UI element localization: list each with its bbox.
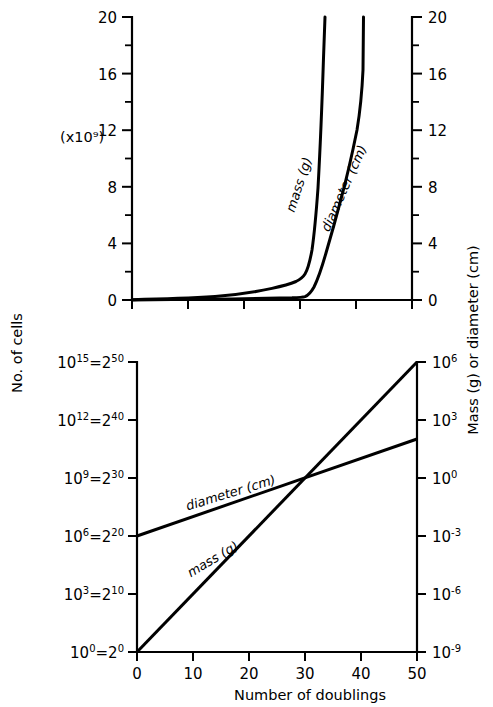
log-left-ticklabel-6: 106=220	[64, 527, 124, 546]
log-x-ticklabel-0: 0	[132, 665, 142, 683]
linear-right-ticklabel-20: 20	[428, 9, 447, 27]
linear-right-ticklabel-16: 16	[428, 66, 447, 84]
log-right-ticklabel-3: 103	[432, 411, 457, 430]
linear-left-ticklabel-8: 8	[107, 179, 117, 197]
linear-left-ticklabel-16: 16	[98, 66, 117, 84]
linear-right-ticklabel-4: 4	[428, 235, 438, 253]
linear-left-ticklabel-0: 0	[107, 292, 117, 310]
linear-x-ticks	[132, 300, 412, 309]
log-left-ticklabels: 100=20 103=210 106=220 109=230 1012=240 …	[57, 353, 124, 662]
linear-multiplier-note: (x10⁹)	[60, 129, 104, 145]
log-left-ticklabel-3: 103=210	[64, 585, 124, 604]
right-axis-title: Mass (g) or diameter (cm)	[465, 245, 481, 434]
log-left-ticklabel-12: 1012=240	[57, 411, 124, 430]
log-x-ticklabel-40: 40	[351, 665, 370, 683]
linear-series-diameter-curve	[132, 17, 364, 300]
linear-label-diameter: diameter (cm)	[318, 143, 370, 234]
linear-label-mass: mass (g)	[283, 155, 315, 214]
linear-series-mass-curve	[132, 17, 325, 300]
log-x-ticklabel-30: 30	[295, 665, 314, 683]
log-x-ticklabel-50: 50	[407, 665, 426, 683]
log-right-ticklabels: 10-9 10-6 10-3 100 103 106	[432, 353, 461, 662]
linear-right-ticklabel-8: 8	[428, 179, 438, 197]
log-right-ticklabel-neg3: 10-3	[432, 527, 461, 546]
log-left-ticklabel-0: 100=20	[70, 643, 124, 662]
log-series-mass-line	[137, 362, 417, 652]
figure-svg: 0 4 8 12 16 20 0 4 8 12 16 20 (x10⁹) mas…	[0, 0, 493, 707]
log-right-ticks	[417, 362, 426, 652]
log-x-ticks	[137, 652, 417, 661]
log-panel: 100=20 103=210 106=220 109=230 1012=240 …	[57, 353, 461, 683]
x-axis-title: Number of doublings	[234, 687, 386, 703]
log-left-ticklabel-9: 109=230	[64, 469, 124, 488]
linear-right-ticklabel-0: 0	[428, 292, 438, 310]
linear-right-ticklabel-12: 12	[428, 122, 447, 140]
left-axis-title: No. of cells	[9, 313, 25, 393]
log-right-ticklabel-neg9: 10-9	[432, 643, 461, 662]
log-right-ticklabel-6: 106	[432, 353, 457, 372]
linear-left-ticklabel-4: 4	[107, 235, 117, 253]
log-x-ticklabel-10: 10	[183, 665, 202, 683]
log-right-ticklabel-neg6: 10-6	[432, 585, 461, 604]
linear-panel: 0 4 8 12 16 20 0 4 8 12 16 20 (x10⁹) mas…	[60, 9, 447, 310]
figure-root: 0 4 8 12 16 20 0 4 8 12 16 20 (x10⁹) mas…	[0, 0, 493, 707]
linear-left-ticklabel-20: 20	[98, 9, 117, 27]
log-right-ticklabel-0: 100	[432, 469, 457, 488]
log-x-ticklabel-20: 20	[239, 665, 258, 683]
log-left-ticks	[128, 362, 137, 652]
log-series-diameter-line	[137, 439, 417, 536]
log-left-ticklabel-15: 1015=250	[57, 353, 124, 372]
